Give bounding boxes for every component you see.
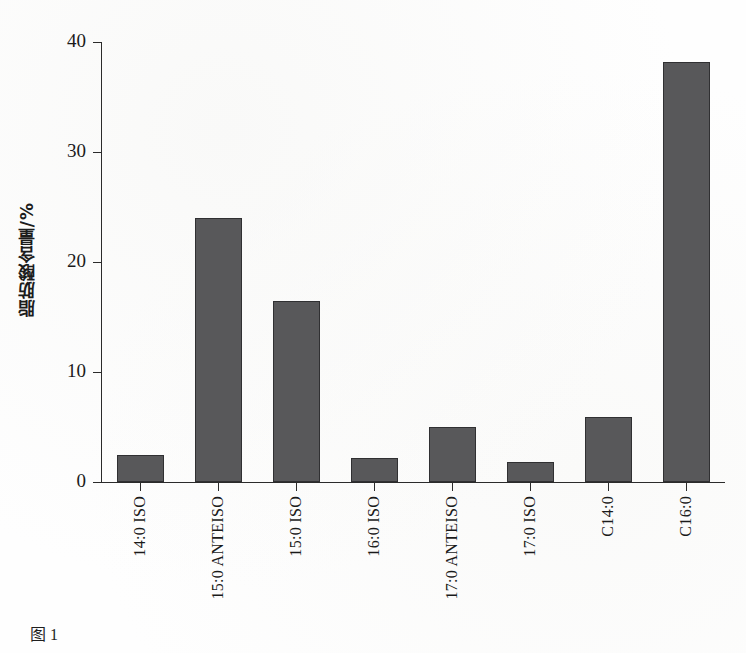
bar [507,462,554,482]
y-axis-title: 脂肪酸含量/% [8,150,44,370]
y-axis-tick: 20 [93,262,101,263]
x-axis-tick [374,482,375,491]
x-axis-tick [608,482,609,491]
y-axis-tick-label: 30 [67,141,86,161]
x-axis-label-text: 14:0 ISO [131,496,149,557]
x-axis-label: 15:0 ISO [283,496,309,626]
bar [117,455,164,483]
figure-container: 脂肪酸含量/% 010203040 14:0 ISO15:0 ANTEISO15… [0,0,746,653]
x-axis-label-text: 15:0 ANTEISO [209,496,227,600]
x-axis-tick [296,482,297,491]
y-axis-title-text: 脂肪酸含量/% [14,202,39,317]
y-axis-tick: 30 [93,152,101,153]
x-axis-label-text: 15:0 ISO [287,496,305,557]
y-axis-line [101,42,102,483]
y-axis-tick: 10 [93,372,101,373]
y-axis-tick: 40 [93,42,101,43]
x-axis-label: 14:0 ISO [127,496,153,626]
x-axis-label-text: 17:0 ISO [521,496,539,557]
bar [195,218,242,482]
y-axis-tick-label: 0 [77,471,87,491]
figure-caption-text: 图 1 [30,626,58,643]
y-axis-tick: 0 [93,482,101,483]
x-axis-label: 15:0 ANTEISO [205,496,231,626]
x-axis-label: 17:0 ISO [517,496,543,626]
x-axis-tick [452,482,453,491]
x-axis-label: C14:0 [595,496,621,626]
bar [429,427,476,482]
x-axis-tick [140,482,141,491]
plot-area: 010203040 [101,42,725,483]
bar [663,62,710,482]
y-axis-tick-label: 20 [67,251,86,271]
bar [273,301,320,483]
x-axis-label: 16:0 ISO [361,496,387,626]
x-axis-label-text: 16:0 ISO [365,496,383,557]
x-axis-tick [686,482,687,491]
x-axis-label-text: 17:0 ANTEISO [443,496,461,600]
y-axis-tick-label: 40 [67,31,86,51]
bar [351,458,398,482]
x-axis-tick [530,482,531,491]
x-axis-label: 17:0 ANTEISO [439,496,465,626]
x-axis-label: C16:0 [673,496,699,626]
x-axis-line [101,482,725,483]
y-axis-tick-label: 10 [67,361,86,381]
x-axis-label-text: C14:0 [599,496,617,537]
figure-caption: 图 1 [30,625,720,653]
bar [585,417,632,482]
x-axis-tick [218,482,219,491]
x-axis-label-text: C16:0 [677,496,695,537]
